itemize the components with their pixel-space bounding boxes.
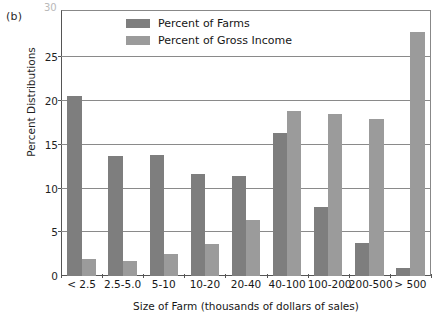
x-tick-mark (61, 274, 62, 278)
x-tick-label: 10-20 (184, 278, 225, 290)
bar-farms (273, 133, 287, 276)
x-tick-mark (184, 274, 185, 278)
bar-farms (396, 268, 410, 276)
bar-income (82, 259, 96, 277)
bar-farms (191, 174, 205, 276)
bar-income (328, 114, 342, 276)
chart-legend: Percent of FarmsPercent of Gross Income (126, 16, 336, 50)
bar-income (123, 261, 137, 276)
gridline (61, 100, 431, 101)
bar-farms (314, 207, 328, 276)
x-tick-label: 100-200 (308, 278, 349, 290)
bar-income (287, 111, 301, 276)
bar-farms (67, 96, 81, 276)
x-tick-mark (102, 274, 103, 278)
bar-farms (108, 156, 122, 276)
bar-farms (355, 243, 369, 276)
figure-panel-b: (b) 30 0510152025 Percent Distributions … (0, 0, 440, 319)
x-tick-mark (143, 274, 144, 278)
bar-income (246, 220, 260, 276)
x-tick-label: 40-100 (267, 278, 308, 290)
bar-income (164, 254, 178, 276)
bar-farms (232, 176, 246, 276)
x-tick-label: > 500 (390, 278, 431, 290)
legend-swatch-income (126, 36, 150, 45)
legend-item: Percent of Gross Income (126, 33, 336, 48)
bar-income (410, 32, 424, 276)
y-axis-label: Percent Distributions (25, 27, 37, 177)
bar-income (205, 244, 219, 276)
x-tick-mark (431, 274, 432, 278)
gridline (61, 56, 431, 57)
x-axis-tick-labels: < 2.52.5-5.05-1010-2020-4040-100100-2002… (61, 278, 431, 294)
bar-income (369, 119, 383, 277)
x-tick-mark (308, 274, 309, 278)
y-tick-label: 0 (32, 270, 58, 282)
x-tick-mark (225, 274, 226, 278)
x-tick-mark (267, 274, 268, 278)
x-tick-label: 200-500 (349, 278, 390, 290)
legend-item: Percent of Farms (126, 16, 336, 31)
x-tick-label: 2.5-5.0 (102, 278, 143, 290)
x-tick-label: 20-40 (225, 278, 266, 290)
legend-label: Percent of Farms (158, 17, 250, 30)
x-tick-label: < 2.5 (61, 278, 102, 290)
bar-farms (150, 155, 164, 276)
legend-label: Percent of Gross Income (158, 34, 292, 47)
x-tick-label: 5-10 (143, 278, 184, 290)
y-tick-label: 5 (32, 226, 58, 238)
x-tick-mark (349, 274, 350, 278)
panel-label: (b) (6, 10, 22, 23)
y-tick-label: 10 (32, 183, 58, 195)
legend-swatch-farms (126, 19, 150, 28)
x-axis-label: Size of Farm (thousands of dollars of sa… (61, 300, 431, 312)
x-tick-mark (390, 274, 391, 278)
